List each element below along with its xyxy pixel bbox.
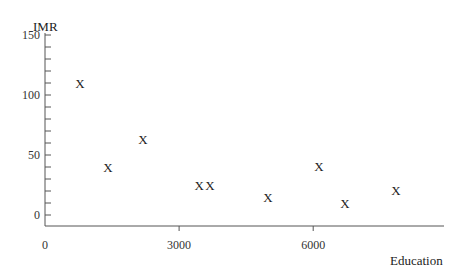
data-point-marker: X — [75, 76, 85, 91]
data-points: XXXXXXXXX — [75, 76, 401, 211]
y-tick-label: 50 — [28, 148, 40, 162]
y-tick-label: 100 — [22, 88, 40, 102]
data-point-marker: X — [138, 132, 148, 147]
x-tick-label: 3000 — [167, 238, 191, 252]
axes — [45, 33, 444, 226]
x-tick-label: 6000 — [301, 238, 325, 252]
data-point-marker: X — [205, 178, 215, 193]
y-tick-label: 0 — [34, 208, 40, 222]
data-point-marker: X — [103, 160, 113, 175]
x-axis-title: Education — [390, 253, 443, 268]
data-point-marker: X — [195, 178, 205, 193]
data-point-marker: X — [340, 196, 350, 211]
x-ticks: 030006000 — [42, 226, 325, 252]
y-axis-title: IMR — [33, 19, 58, 34]
data-point-marker: X — [263, 190, 273, 205]
x-tick-label: 0 — [42, 238, 48, 252]
scatter-chart: 050100150 030006000 IMR Education XXXXXX… — [0, 0, 465, 275]
data-point-marker: X — [314, 159, 324, 174]
y-ticks: 050100150 — [22, 28, 51, 222]
data-point-marker: X — [391, 183, 401, 198]
